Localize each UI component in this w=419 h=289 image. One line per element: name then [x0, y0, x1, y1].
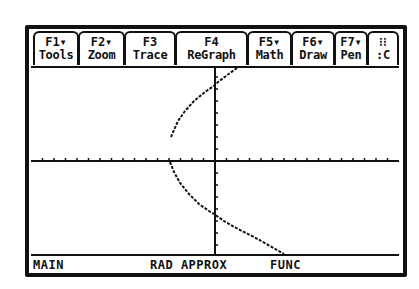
status-divider — [31, 254, 399, 256]
curve-upper-branch — [171, 68, 237, 137]
status-mode: RAD APPROX — [150, 258, 227, 272]
curve-lower-branch — [170, 162, 284, 254]
graph-area[interactable] — [0, 0, 419, 289]
status-graph-mode: FUNC — [270, 258, 301, 272]
status-folder: MAIN — [33, 258, 64, 272]
